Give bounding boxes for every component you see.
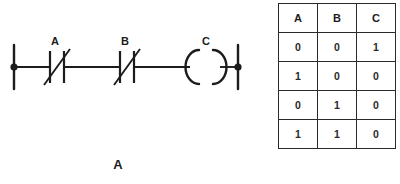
- cell-a: 1: [279, 62, 318, 91]
- contact-b-label: B: [121, 35, 129, 47]
- table-row: 1 1 0: [279, 120, 396, 149]
- panel-ladder-diagram: A B C A: [0, 0, 262, 184]
- truth-table-head: A B C: [279, 4, 396, 33]
- cell-b: 0: [318, 33, 357, 62]
- table-row: 0 0 1: [279, 33, 396, 62]
- table-row: 1 0 0: [279, 62, 396, 91]
- cell-b: 1: [318, 120, 357, 149]
- ladder-diagram-svg: A B C: [0, 0, 262, 150]
- figure-root: A B C A A B C 0 0 1 1: [0, 0, 400, 184]
- cell-a: 0: [279, 91, 318, 120]
- column-header-a: A: [279, 4, 318, 33]
- panel-a-caption: A: [98, 158, 138, 171]
- truth-table-header-row: A B C: [279, 4, 396, 33]
- cell-a: 1: [279, 120, 318, 149]
- column-header-c: C: [357, 4, 396, 33]
- cell-b: 0: [318, 62, 357, 91]
- cell-c: 0: [357, 91, 396, 120]
- cell-c: 0: [357, 120, 396, 149]
- panel-truth-table: A B C 0 0 1 1 0 0 0 1: [262, 0, 400, 184]
- contact-a-label: A: [51, 35, 59, 47]
- cell-c: 1: [357, 33, 396, 62]
- cell-c: 0: [357, 62, 396, 91]
- table-row: 0 1 0: [279, 91, 396, 120]
- truth-table: A B C 0 0 1 1 0 0 0 1: [278, 3, 396, 149]
- cell-b: 1: [318, 91, 357, 120]
- coil-c-label: C: [202, 35, 210, 47]
- cell-a: 0: [279, 33, 318, 62]
- column-header-b: B: [318, 4, 357, 33]
- truth-table-body: 0 0 1 1 0 0 0 1 0 1 1 0: [279, 33, 396, 149]
